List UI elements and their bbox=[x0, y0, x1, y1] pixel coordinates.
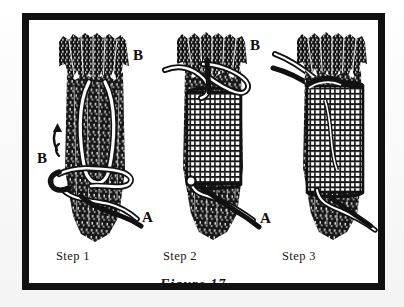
pull-direction-arrow-icon bbox=[53, 123, 62, 156]
figure-caption: Figure 17 bbox=[160, 277, 226, 283]
label-b-step-3: B bbox=[250, 38, 260, 53]
illustration-plate: B A B A B A Step 1 Step 2 Step 3 Figure … bbox=[29, 20, 378, 283]
label-a-step-2: A bbox=[260, 211, 271, 226]
label-a-step-1: A bbox=[142, 210, 153, 225]
whipping-coils-3 bbox=[307, 82, 363, 197]
scanned-page: B A B A B A Step 1 Step 2 Step 3 Figure … bbox=[0, 0, 404, 307]
whipping-coils-2 bbox=[187, 88, 241, 188]
step-label-2: Step 2 bbox=[163, 249, 197, 264]
step-label-3: Step 3 bbox=[282, 249, 316, 264]
whipping-illustration bbox=[29, 20, 378, 283]
panel-step-2-art bbox=[165, 32, 259, 240]
label-b-step-2: B bbox=[133, 48, 143, 63]
figure-frame: B A B A B A Step 1 Step 2 Step 3 Figure … bbox=[22, 13, 385, 290]
label-b-step-1: B bbox=[37, 151, 47, 166]
step-label-1: Step 1 bbox=[56, 249, 90, 264]
panel-step-3-art bbox=[273, 32, 375, 240]
panel-step-1-art bbox=[50, 33, 141, 242]
